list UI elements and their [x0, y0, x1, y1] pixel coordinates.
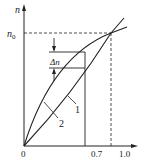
y-axis-arrow-icon	[22, 4, 26, 11]
curve-2	[24, 27, 127, 146]
diagram-canvas: n n0 Δn 1 2 0 0.7 1.0	[0, 0, 145, 161]
arrow-down-icon	[52, 46, 56, 52]
x-tick-10: 1.0	[119, 149, 131, 159]
x-axis-arrow-icon	[131, 144, 138, 148]
y-axis-label: n	[15, 4, 20, 15]
arrow-up-icon	[52, 68, 56, 74]
x-tick-0: 0	[21, 149, 26, 159]
leader-line-1	[68, 96, 76, 104]
curve-1-label: 1	[75, 104, 80, 115]
x-tick-07: 0.7	[91, 149, 103, 159]
figure: n n0 Δn 1 2 0 0.7 1.0	[0, 0, 145, 161]
curve-1	[24, 18, 124, 146]
n0-label: n0	[7, 28, 16, 41]
delta-n-label: Δn	[49, 57, 60, 67]
curve-2-label: 2	[59, 118, 64, 129]
